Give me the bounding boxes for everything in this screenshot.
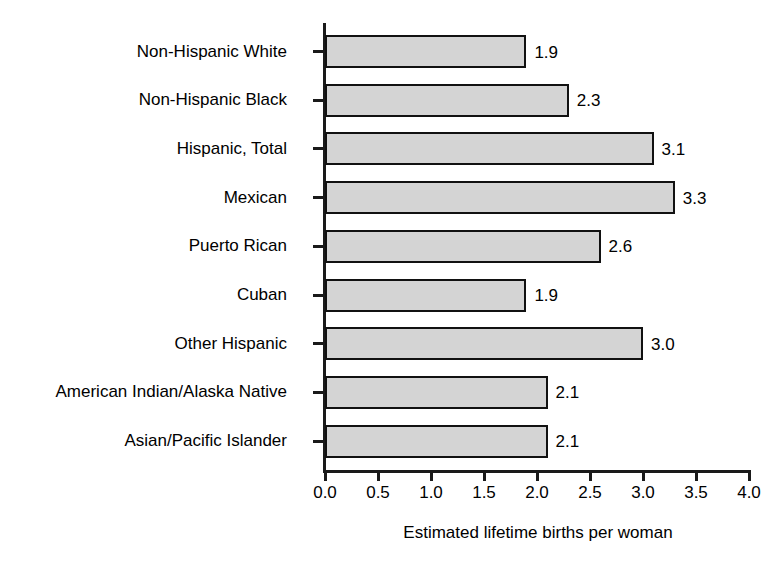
plot-area: 1.9Non-Hispanic White2.3Non-Hispanic Bla… bbox=[0, 0, 780, 575]
bar bbox=[325, 230, 601, 263]
bar-row: 2.3 bbox=[325, 84, 569, 117]
bar-row: 2.1 bbox=[325, 376, 548, 409]
x-axis-tick bbox=[377, 470, 380, 481]
x-axis-tick bbox=[324, 470, 327, 481]
y-axis-category-label: Cuban bbox=[237, 286, 287, 303]
bar bbox=[325, 425, 548, 458]
bar-value-label: 1.9 bbox=[534, 43, 558, 60]
bar bbox=[325, 327, 643, 360]
bar-value-label: 1.9 bbox=[534, 287, 558, 304]
bar-value-label: 2.1 bbox=[556, 433, 580, 450]
bar-row: 2.6 bbox=[325, 230, 601, 263]
x-axis-tick bbox=[536, 470, 539, 481]
x-axis-tick-label: 0.5 bbox=[366, 484, 390, 501]
bar-row: 2.1 bbox=[325, 425, 548, 458]
bar bbox=[325, 132, 654, 165]
y-axis-category-label: Puerto Rican bbox=[189, 237, 287, 254]
y-axis-category-label: Asian/Pacific Islander bbox=[124, 432, 287, 449]
bar-value-label: 2.6 bbox=[609, 238, 633, 255]
x-axis-tick bbox=[695, 470, 698, 481]
y-axis-category-label: Mexican bbox=[224, 189, 287, 206]
x-axis-tick bbox=[642, 470, 645, 481]
x-axis-tick-label: 1.5 bbox=[472, 484, 496, 501]
y-axis-category-label: Other Hispanic bbox=[175, 335, 287, 352]
y-axis-category-label: American Indian/Alaska Native bbox=[55, 383, 287, 400]
x-axis-tick-label: 1.0 bbox=[419, 484, 443, 501]
x-axis-tick-label: 3.5 bbox=[684, 484, 708, 501]
bar-row: 1.9 bbox=[325, 279, 526, 312]
x-axis-tick-label: 0.0 bbox=[313, 484, 337, 501]
bar-row: 3.1 bbox=[325, 132, 654, 165]
bar-value-label: 3.1 bbox=[662, 140, 686, 157]
y-axis-category-label: Hispanic, Total bbox=[177, 140, 287, 157]
bar-value-label: 2.3 bbox=[577, 92, 601, 109]
x-axis-title: Estimated lifetime births per woman bbox=[325, 524, 751, 541]
y-axis-tick bbox=[313, 196, 324, 199]
x-axis-tick-label: 2.5 bbox=[578, 484, 602, 501]
y-axis-category-label: Non-Hispanic Black bbox=[139, 91, 287, 108]
bar bbox=[325, 181, 675, 214]
y-axis-tick bbox=[313, 294, 324, 297]
bar-row: 3.3 bbox=[325, 181, 675, 214]
bar bbox=[325, 35, 526, 68]
x-axis-tick bbox=[430, 470, 433, 481]
y-axis-tick bbox=[313, 440, 324, 443]
bar-value-label: 3.3 bbox=[683, 189, 707, 206]
y-axis-tick bbox=[313, 50, 324, 53]
x-axis-tick-label: 4.0 bbox=[737, 484, 761, 501]
x-axis-tick bbox=[589, 470, 592, 481]
y-axis-tick bbox=[313, 99, 324, 102]
x-axis-tick bbox=[748, 470, 751, 481]
bar bbox=[325, 376, 548, 409]
x-axis-tick bbox=[483, 470, 486, 481]
x-axis-tick-label: 2.0 bbox=[525, 484, 549, 501]
x-axis-tick-label: 3.0 bbox=[631, 484, 655, 501]
bar-row: 1.9 bbox=[325, 35, 526, 68]
y-axis-tick bbox=[313, 342, 324, 345]
bar bbox=[325, 279, 526, 312]
bar bbox=[325, 84, 569, 117]
bar-chart: 1.9Non-Hispanic White2.3Non-Hispanic Bla… bbox=[0, 0, 780, 575]
y-axis-tick bbox=[313, 147, 324, 150]
y-axis-category-label: Non-Hispanic White bbox=[137, 43, 287, 60]
y-axis-tick bbox=[313, 391, 324, 394]
bar-row: 3.0 bbox=[325, 327, 643, 360]
y-axis-tick bbox=[313, 245, 324, 248]
bar-value-label: 2.1 bbox=[556, 384, 580, 401]
bar-value-label: 3.0 bbox=[651, 335, 675, 352]
